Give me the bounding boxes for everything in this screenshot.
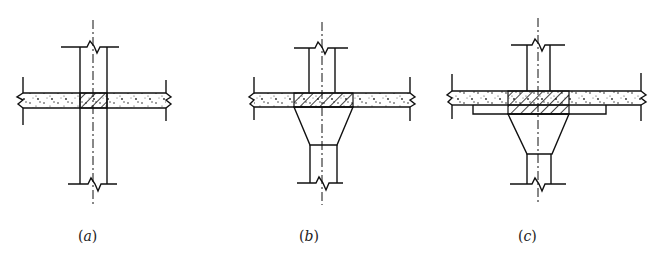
left-break-line (17, 77, 23, 125)
right-break-line (166, 80, 171, 121)
panel-a (17, 20, 171, 205)
left-break-line (447, 74, 452, 119)
panel-c (447, 18, 646, 203)
right-break-line (410, 77, 415, 121)
panel-b (249, 22, 415, 205)
column-slab-joint (294, 93, 353, 107)
slab-column-diagram (0, 0, 659, 265)
left-break-line (249, 77, 254, 120)
upper-column (294, 42, 348, 93)
caption-c-letter: c (523, 228, 531, 244)
caption-b-letter: b (304, 228, 313, 244)
lower-column (297, 145, 343, 190)
caption-c: (c) (518, 228, 537, 244)
right-break-line (641, 73, 646, 121)
caption-a-letter: a (83, 228, 91, 244)
caption-b: (b) (299, 228, 319, 244)
column (61, 20, 119, 205)
caption-a: (a) (78, 228, 97, 244)
column-capital (294, 107, 353, 145)
